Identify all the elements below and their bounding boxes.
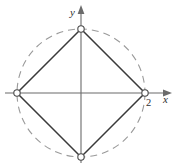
y-axis-arrow-icon [78, 5, 85, 14]
left-vertex-marker [14, 90, 20, 96]
x-tick-label-2: 2 [146, 97, 151, 108]
math-figure: y x 2 [0, 0, 177, 168]
right-vertex-marker [142, 90, 148, 96]
bottom-vertex-marker [78, 154, 84, 160]
x-axis-label: x [162, 93, 168, 105]
figure-canvas: y x 2 [0, 0, 177, 168]
y-axis-label: y [69, 6, 75, 18]
top-vertex-marker [78, 26, 84, 32]
